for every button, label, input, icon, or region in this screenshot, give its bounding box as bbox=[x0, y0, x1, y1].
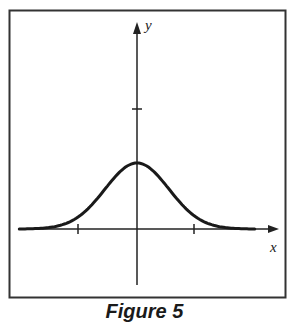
figure-caption: Figure 5 bbox=[0, 301, 289, 321]
figure-frame bbox=[10, 11, 286, 298]
x-axis-label: x bbox=[269, 239, 277, 255]
y-axis-label: y bbox=[143, 17, 152, 33]
y-axis-arrow-icon bbox=[133, 22, 141, 34]
x-axis-arrow-icon bbox=[268, 225, 279, 233]
